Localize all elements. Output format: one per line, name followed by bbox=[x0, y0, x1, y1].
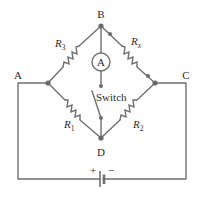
branch-a-b bbox=[48, 26, 101, 83]
node-b bbox=[98, 23, 103, 28]
r2-label: R2 bbox=[132, 118, 144, 133]
node-a bbox=[45, 80, 50, 85]
wheatstone-bridge-diagram: + − A Switch bbox=[0, 0, 199, 197]
r1-label-subscript: 1 bbox=[71, 124, 75, 133]
terminal-dot bbox=[146, 74, 150, 78]
r3-label-subscript: 3 bbox=[62, 43, 66, 52]
battery-positive-label: + bbox=[90, 164, 96, 176]
node-d bbox=[98, 135, 103, 140]
rx-label: Rx bbox=[130, 35, 142, 50]
node-b-label: B bbox=[97, 8, 104, 20]
resistor-r1 bbox=[65, 100, 80, 120]
wire-r2-c bbox=[137, 83, 155, 100]
node-a-label: A bbox=[14, 69, 22, 81]
switch-label: Switch bbox=[96, 91, 127, 103]
switch-top-contact bbox=[99, 84, 103, 88]
rx-label-subscript: x bbox=[137, 41, 142, 50]
resistor-r2 bbox=[120, 100, 137, 120]
r2-label-subscript: 2 bbox=[140, 124, 144, 133]
node-d-label: D bbox=[97, 146, 105, 158]
wire-a-r3 bbox=[48, 67, 63, 83]
wire-b-rx bbox=[101, 26, 122, 46]
wire-r3-b bbox=[79, 26, 101, 46]
resistor-rx bbox=[122, 46, 137, 67]
r1-label: R1 bbox=[63, 118, 75, 133]
wire-rx-c bbox=[137, 67, 155, 83]
ammeter-symbol: A bbox=[97, 56, 105, 68]
terminal-dot bbox=[108, 32, 112, 36]
wire-r1-d bbox=[80, 120, 101, 138]
resistor-labels: R3 Rx R1 R2 bbox=[54, 35, 144, 133]
wire-a-r1 bbox=[48, 83, 65, 100]
wire-a-to-battery bbox=[18, 83, 100, 179]
branch-b-c bbox=[101, 26, 155, 83]
r3-label: R3 bbox=[54, 37, 66, 52]
node-c-label: C bbox=[182, 69, 189, 81]
wire-d-r2 bbox=[101, 120, 120, 138]
battery: + − bbox=[90, 164, 114, 187]
branch-b-d: A Switch bbox=[92, 26, 127, 138]
branch-a-d bbox=[48, 83, 101, 138]
node-c bbox=[152, 80, 157, 85]
battery-negative-label: − bbox=[108, 164, 114, 176]
